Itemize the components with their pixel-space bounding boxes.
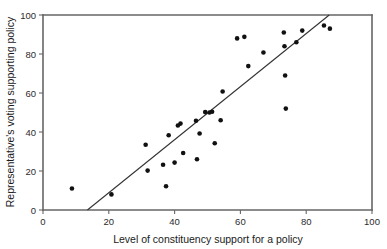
scatter-plot-figure: 020406080100 020406080100 Level of const… <box>0 0 387 249</box>
data-points-group <box>70 23 333 196</box>
data-point <box>284 106 289 111</box>
x-tick-label: 80 <box>301 216 312 227</box>
data-point <box>242 35 247 40</box>
data-point <box>294 40 299 45</box>
data-point <box>210 109 215 114</box>
data-point <box>246 64 251 69</box>
data-point <box>143 142 148 147</box>
data-point <box>282 44 287 49</box>
data-point <box>181 151 186 156</box>
data-point <box>197 131 202 136</box>
data-point <box>194 118 199 123</box>
y-axis-title: Representative's voting supporting polic… <box>4 16 16 207</box>
y-tick-label: 80 <box>25 49 36 60</box>
data-point <box>322 23 327 28</box>
data-point <box>218 118 223 123</box>
x-tick-label: 100 <box>364 216 380 227</box>
x-tick-label: 40 <box>169 216 180 227</box>
chart-canvas: 020406080100 020406080100 Level of const… <box>0 0 387 249</box>
x-axis-title: Level of constituency support for a poli… <box>113 233 303 245</box>
y-tick-label: 0 <box>31 205 36 216</box>
data-point <box>212 141 217 146</box>
data-point <box>164 184 169 189</box>
x-axis-ticks: 020406080100 <box>40 210 380 227</box>
data-point <box>166 133 171 138</box>
y-tick-label: 40 <box>25 127 36 138</box>
data-point <box>300 28 305 33</box>
data-point <box>70 186 75 191</box>
x-tick-label: 0 <box>40 216 45 227</box>
data-point <box>109 192 114 197</box>
y-tick-label: 60 <box>25 88 36 99</box>
data-point <box>161 162 166 167</box>
y-axis-ticks: 020406080100 <box>20 10 43 216</box>
data-point <box>235 36 240 41</box>
data-point <box>178 121 183 126</box>
data-point <box>328 26 333 31</box>
y-tick-label: 20 <box>25 166 36 177</box>
data-point <box>172 160 177 165</box>
data-point <box>145 168 150 173</box>
data-point <box>283 73 288 78</box>
data-point <box>195 157 200 162</box>
x-tick-label: 20 <box>104 216 115 227</box>
data-point <box>203 110 208 115</box>
data-point <box>261 50 266 55</box>
y-tick-label: 100 <box>20 10 36 21</box>
data-point <box>282 30 287 35</box>
x-tick-label: 60 <box>235 216 246 227</box>
data-point <box>220 89 225 94</box>
